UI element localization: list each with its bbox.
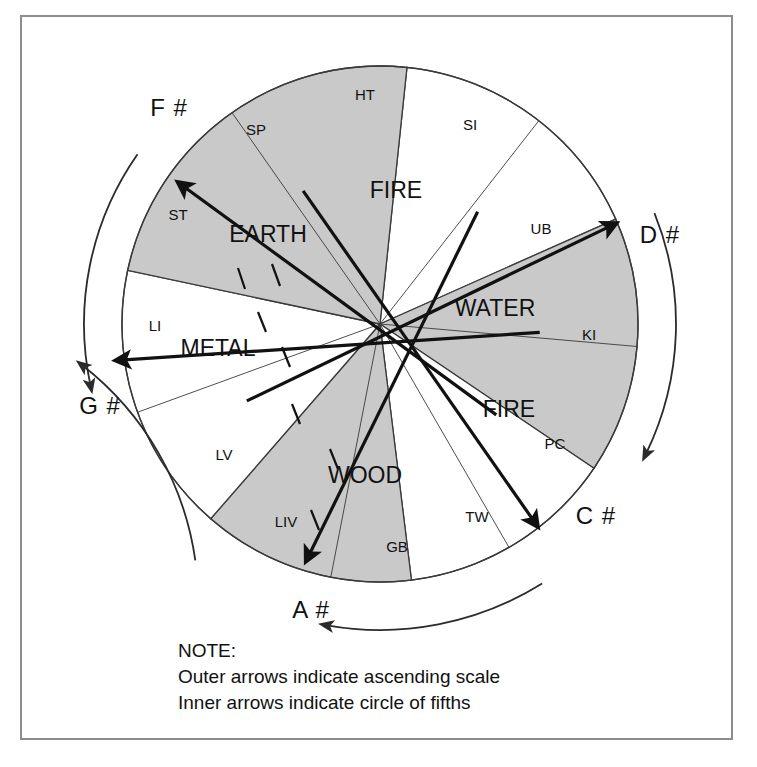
organ-label-ub: UB	[531, 220, 552, 237]
note-name-c-sharp: C #	[576, 502, 616, 529]
organ-label-li: LI	[149, 317, 162, 334]
element-label-wood-3: WOOD	[328, 462, 402, 488]
organ-label-lv: LV	[215, 446, 232, 463]
note-name-f-sharp: F #	[150, 94, 188, 121]
organ-label-liv: LIV	[275, 513, 298, 530]
organ-label-sp: SP	[246, 121, 266, 138]
element-label-earth-5: EARTH	[229, 221, 307, 247]
organ-label-si: SI	[463, 116, 477, 133]
organ-label-st: ST	[168, 206, 187, 223]
note-name-g-sharp: G #	[79, 392, 121, 419]
note-heading: NOTE:	[178, 638, 648, 664]
element-label-water-1: WATER	[455, 295, 536, 321]
organ-label-pc: PC	[545, 435, 566, 452]
organ-label-gb: GB	[386, 538, 408, 555]
note-name-d-sharp: D #	[640, 221, 680, 248]
organ-label-ht: HT	[355, 86, 375, 103]
organ-label-tw: TW	[465, 508, 489, 525]
note-block: NOTE: Outer arrows indicate ascending sc…	[178, 638, 648, 716]
organ-label-ki: KI	[582, 326, 596, 343]
note-line-outer-arrows: Outer arrows indicate ascending scale	[178, 664, 648, 690]
element-label-fire-0: FIRE	[370, 177, 422, 203]
note-name-a-sharp: A #	[292, 596, 330, 623]
element-label-metal-4: METAL	[181, 335, 256, 361]
figure-root: HTSIUBKIPCTWGBLIVLVLISTSP FIREWATERFIREW…	[0, 0, 757, 767]
note-line-inner-arrows: Inner arrows indicate circle of fifths	[178, 690, 648, 716]
